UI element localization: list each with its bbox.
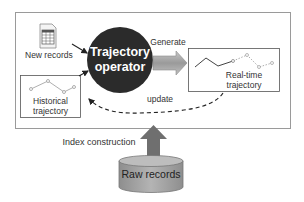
operator-label-line2: operator	[87, 60, 153, 75]
spreadsheet-icon	[40, 24, 56, 48]
realtime-label-line2: trajectory	[218, 80, 270, 90]
raw-records-label: Raw records	[119, 168, 183, 180]
generate-arrow	[153, 51, 187, 75]
historical-label-line1: Historical	[20, 96, 81, 106]
historical-trajectory-label: Historical trajectory	[20, 96, 81, 116]
historical-label-line2: trajectory	[20, 106, 81, 116]
arrow-new-records-to-operator	[72, 44, 87, 53]
update-label: update	[140, 94, 180, 104]
new-records-label: New records	[25, 50, 71, 60]
trajectory-operator-label: Trajectory operator	[87, 45, 153, 75]
index-construction-arrow	[140, 125, 167, 158]
realtime-label-line1: Real-time	[218, 70, 270, 80]
realtime-trajectory-label: Real-time trajectory	[218, 70, 270, 90]
generate-label: Generate	[148, 37, 188, 47]
index-construction-label: Index construction	[60, 137, 138, 147]
operator-label-line1: Trajectory	[87, 45, 153, 60]
